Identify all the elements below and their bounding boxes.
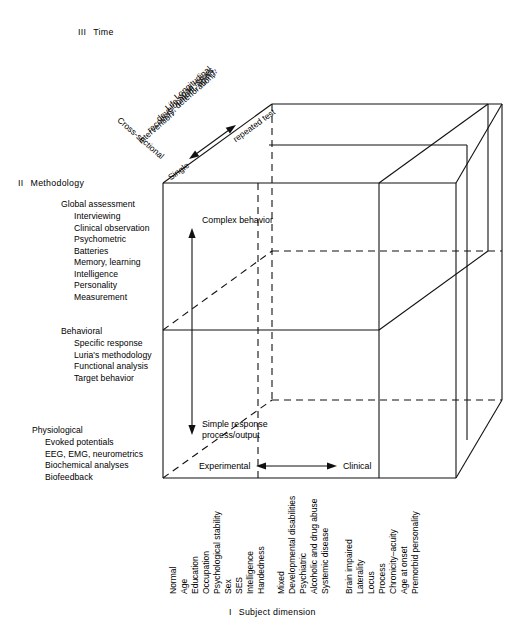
methodology-group-items-physiological: Evoked potentials EEG, EMG, neurometrics… <box>45 437 143 483</box>
axis-numeral-methodology: II <box>18 178 24 188</box>
methodology-item-interviewing: Interviewing <box>74 211 150 223</box>
subject-item-intelligence: Intelligence <box>246 551 255 594</box>
methodology-group-title-physiological: Physiological <box>32 425 83 437</box>
subject-item-handedness: Handedness <box>257 546 266 594</box>
subject-item-psychological-stability: Psychological stability <box>213 511 222 594</box>
subject-item-chronicity-acuity: Chronicity–acuity <box>389 529 398 594</box>
methodology-item-clinical-observation: Clinical observation <box>74 223 150 235</box>
cube-label-simple-response-line1: Simple response <box>202 419 268 430</box>
cube-interior-dashed <box>163 251 502 478</box>
subject-item-occupation: Occupation <box>202 551 211 594</box>
methodology-item-evoked-potentials: Evoked potentials <box>45 437 143 449</box>
cube-label-simple-response-line2: process/output <box>202 430 268 441</box>
subject-item-age-at-onset: Age at onset <box>400 546 409 594</box>
subject-item-systemic-disease: Systemic disease <box>321 528 330 594</box>
cube-diagram <box>0 0 517 625</box>
axis-label-time: Time <box>93 27 113 37</box>
methodology-item-target-behavior: Target behavior <box>74 373 152 385</box>
time-axis-arrow <box>189 125 236 159</box>
cube-label-simple-response: Simple response process/output <box>202 419 268 440</box>
cube-label-experimental: Experimental <box>199 461 250 472</box>
figure-three-dimensional-model: IIITime Longitudinal Life span issues, d… <box>0 0 517 625</box>
methodology-group-items-behavioral: Specific response Luria's methodology Fu… <box>74 338 152 384</box>
subject-item-developmental-disabilities: Developmental disabilities <box>288 496 297 594</box>
methodology-item-measurement: Measurement <box>74 292 150 304</box>
methodology-item-psychometric: Psychometric <box>74 234 150 246</box>
subject-item-alcoholic-and-drug-abuse: Alcoholic and drug abuse <box>310 499 319 594</box>
figure-caption: ISubject dimension <box>229 607 316 617</box>
subject-item-ses: SES <box>235 577 244 594</box>
subject-item-normal: Normal <box>169 567 178 594</box>
methodology-item-batteries: Batteries <box>74 246 150 258</box>
cube-label-complex-behavior: Complex behavior <box>202 215 273 226</box>
subject-item-age: Age <box>180 579 189 594</box>
subject-item-brain-impaired: Brain impaired <box>345 539 354 594</box>
cube-label-clinical: Clinical <box>343 461 371 472</box>
subject-item-psychiatric: Psychiatric <box>299 553 308 594</box>
subject-item-mixed: Mixed <box>277 571 286 594</box>
subject-item-process: Process <box>378 563 387 594</box>
methodology-group-title-global-assessment: Global assessment <box>61 199 135 211</box>
methodology-item-memory-learning: Memory, learning <box>74 257 150 269</box>
axis-heading-time: IIITime <box>78 27 114 39</box>
subject-axis-arrow <box>256 462 337 469</box>
cube-right-face <box>456 104 502 478</box>
subject-item-sex: Sex <box>224 579 233 594</box>
methodology-item-biochemical-analyses: Biochemical analyses <box>45 460 143 472</box>
subject-item-education: Education <box>191 556 200 594</box>
methodology-item-personality: Personality <box>74 280 150 292</box>
axis-numeral-time: III <box>78 27 86 37</box>
methodology-item-functional-analysis: Functional analysis <box>74 361 152 373</box>
methodology-axis-arrow <box>188 228 195 435</box>
subject-item-premorbid-personality: Premorbid personality <box>411 511 420 594</box>
methodology-item-biofeedback: Biofeedback <box>45 472 143 484</box>
caption-numeral: I <box>229 607 232 617</box>
methodology-group-items-global-assessment: Interviewing Clinical observation Psycho… <box>74 211 150 303</box>
subject-item-laterality: Laterality <box>356 560 365 595</box>
methodology-group-title-behavioral: Behavioral <box>61 326 102 338</box>
methodology-item-eeg-emg-neurometrics: EEG, EMG, neurometrics <box>45 449 143 461</box>
axis-heading-methodology: IIMethodology <box>18 178 84 190</box>
caption-text: Subject dimension <box>239 607 316 617</box>
methodology-item-lurias-methodology: Luria's methodology <box>74 350 152 362</box>
cube-top-face <box>163 104 502 183</box>
methodology-item-specific-response: Specific response <box>74 338 152 350</box>
subject-item-locus: Locus <box>367 571 376 594</box>
methodology-item-intelligence: Intelligence <box>74 269 150 281</box>
axis-label-methodology: Methodology <box>31 178 85 188</box>
